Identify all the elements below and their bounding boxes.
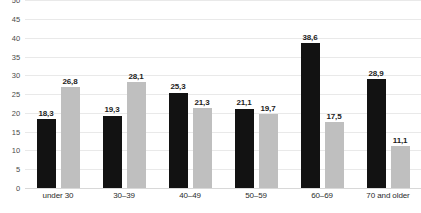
y-tick-label-10: 10: [0, 146, 20, 155]
bar-value-label: 28,1: [121, 72, 151, 81]
bar-group: 21,119,7: [223, 0, 289, 188]
bar-value-label: 21,3: [187, 98, 217, 107]
category-label: 60–69: [289, 191, 355, 200]
bar-value-label: 28,9: [361, 69, 391, 78]
category-label: under 30: [25, 191, 91, 200]
category-label: 50–59: [223, 191, 289, 200]
bar-group: 25,321,3: [157, 0, 223, 188]
bar: [301, 43, 320, 188]
bar: [103, 116, 122, 188]
bar: [259, 114, 278, 188]
bar-value-label: 19,3: [97, 105, 127, 114]
y-tick-label-35: 35: [0, 52, 20, 61]
bar-value-label: 17,5: [319, 112, 349, 121]
y-tick-label-0: 0: [0, 184, 20, 193]
bar-value-label: 26,8: [55, 77, 85, 86]
bar: [235, 109, 254, 188]
y-tick-label-40: 40: [0, 33, 20, 42]
category-label: 40–49: [157, 191, 223, 200]
bar-group: 18,326,8: [25, 0, 91, 188]
plot-area: 18,326,819,328,125,321,321,119,738,617,5…: [25, 0, 421, 188]
y-tick-label-20: 20: [0, 108, 20, 117]
y-tick-label-25: 25: [0, 90, 20, 99]
bar-value-label: 38,6: [295, 33, 325, 42]
y-tick-label-5: 5: [0, 165, 20, 174]
y-tick-label-15: 15: [0, 127, 20, 136]
bar: [193, 108, 212, 188]
bar-group: 38,617,5: [289, 0, 355, 188]
bar: [325, 122, 344, 188]
y-tick-label-30: 30: [0, 71, 20, 80]
y-tick-label-45: 45: [0, 14, 20, 23]
bar-value-label: 25,3: [163, 82, 193, 91]
bar-value-label: 19,7: [253, 104, 283, 113]
y-tick-label-50: 50: [0, 0, 20, 5]
grid-line-0: [25, 188, 421, 189]
bar-chart: 05101520253035404550 18,326,819,328,125,…: [0, 0, 421, 213]
bar: [391, 146, 410, 188]
bar: [367, 79, 386, 188]
bar-group: 28,911,1: [355, 0, 421, 188]
bar-group: 19,328,1: [91, 0, 157, 188]
bar: [127, 82, 146, 188]
bar: [37, 119, 56, 188]
category-label: 30–39: [91, 191, 157, 200]
category-label: 70 and older: [355, 191, 421, 200]
bar-value-label: 18,3: [31, 109, 61, 118]
bar-value-label: 11,1: [385, 136, 415, 145]
bar: [61, 87, 80, 188]
bar: [169, 93, 188, 188]
